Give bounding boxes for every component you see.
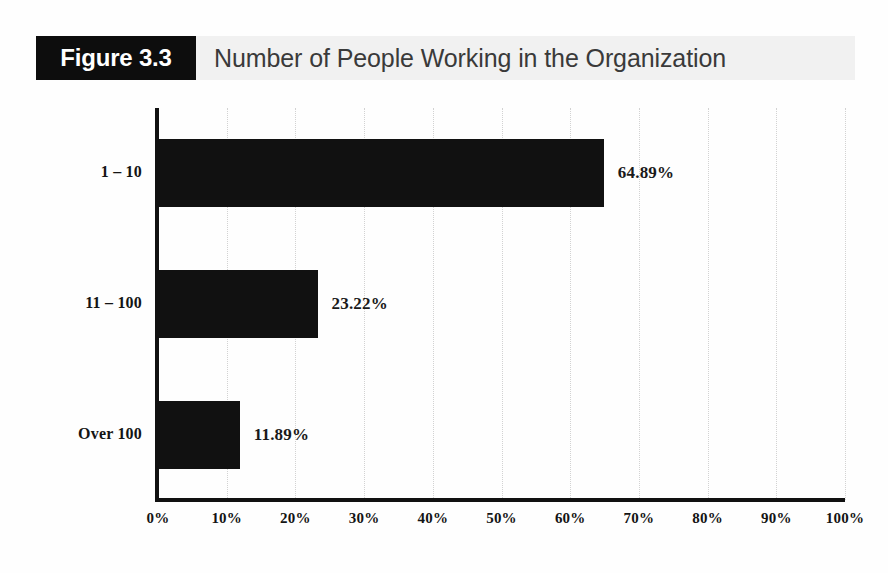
xtick-10%: 10% xyxy=(211,510,242,527)
bar-value-label-1: 64.89% xyxy=(618,163,674,183)
category-label-2: 11 – 100 xyxy=(0,294,142,312)
xtick-20%: 20% xyxy=(280,510,311,527)
bar-value-label-3: 11.89% xyxy=(254,425,310,445)
xtick-50%: 50% xyxy=(486,510,517,527)
xtick-40%: 40% xyxy=(417,510,448,527)
bar-row: 64.89% xyxy=(158,139,845,207)
xtick-90%: 90% xyxy=(761,510,792,527)
xtick-80%: 80% xyxy=(692,510,723,527)
x-axis-line xyxy=(155,498,845,502)
xtick-0%: 0% xyxy=(147,510,170,527)
bar-2[interactable] xyxy=(158,270,318,338)
category-label-3: Over 100 xyxy=(0,425,142,443)
y-axis-line xyxy=(155,108,159,500)
xtick-30%: 30% xyxy=(349,510,380,527)
bar-1[interactable] xyxy=(158,139,604,207)
bar-value-label-2: 23.22% xyxy=(332,294,388,314)
figure-root: Figure 3.3 Number of People Working in t… xyxy=(0,0,888,573)
bar-3[interactable] xyxy=(158,401,240,469)
chart-plot-area: 64.89%23.22%11.89% xyxy=(158,108,845,500)
xtick-70%: 70% xyxy=(624,510,655,527)
xtick-100%: 100% xyxy=(826,510,864,527)
bar-row: 23.22% xyxy=(158,270,845,338)
category-label-1: 1 – 10 xyxy=(0,163,142,181)
chart-plot-wrapper: 64.89%23.22%11.89% 1 – 1011 – 100Over 10… xyxy=(0,0,888,573)
gridline-100% xyxy=(845,108,846,500)
bar-row: 11.89% xyxy=(158,401,845,469)
xtick-60%: 60% xyxy=(555,510,586,527)
